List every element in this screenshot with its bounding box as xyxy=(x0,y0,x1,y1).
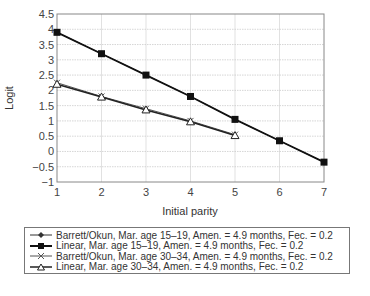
y-tick-label: 2.5 xyxy=(39,69,54,81)
legend-item: Linear, Mar. age 30–34, Amen. = 4.9 mont… xyxy=(30,262,349,273)
x-tick-label: 7 xyxy=(321,186,327,198)
y-tick-label: 3 xyxy=(48,54,54,66)
legend: Barrett/Okun, Mar. age 15–19, Amen. = 4.… xyxy=(24,227,350,274)
x-marker-icon xyxy=(30,252,52,260)
x-tick-label: 5 xyxy=(232,186,238,198)
y-axis-label: Logit xyxy=(3,86,15,110)
y-tick-label: 4.5 xyxy=(39,8,54,20)
line-chart: 4.543.532.521.510.50−0.5−1 1234567 Logit… xyxy=(0,0,370,225)
x-axis-ticks: 1234567 xyxy=(54,186,327,198)
y-tick-label: 1 xyxy=(48,115,54,127)
legend-label: Barrett/Okun, Mar. age 15–19, Amen. = 4.… xyxy=(56,230,333,241)
y-tick-label: 4 xyxy=(48,23,54,35)
legend-label: Linear, Mar. age 30–34, Amen. = 4.9 mont… xyxy=(56,261,303,272)
y-tick-label: 3.5 xyxy=(39,39,54,51)
triangle-marker-icon xyxy=(30,263,52,271)
x-tick-label: 1 xyxy=(54,186,60,198)
legend-item: Linear, Mar. age 15–19, Amen. = 4.9 mont… xyxy=(30,241,349,252)
x-tick-label: 3 xyxy=(143,186,149,198)
y-tick-label: 0.5 xyxy=(39,130,54,142)
legend-item: Barrett/Okun, Mar. age 15–19, Amen. = 4.… xyxy=(30,230,349,241)
legend-label: Barrett/Okun, Mar. age 30–34, Amen. = 4.… xyxy=(56,251,333,262)
x-tick-label: 4 xyxy=(187,186,193,198)
y-tick-label: 0 xyxy=(48,145,54,157)
x-tick-label: 2 xyxy=(98,186,104,198)
legend-label: Linear, Mar. age 15–19, Amen. = 4.9 mont… xyxy=(56,240,303,251)
square-marker-icon xyxy=(30,242,52,250)
x-axis-label: Initial parity xyxy=(162,205,218,217)
y-axis-ticks: 4.543.532.521.510.50−0.5−1 xyxy=(32,8,54,188)
legend-item: Barrett/Okun, Mar. age 30–34, Amen. = 4.… xyxy=(30,251,349,262)
y-tick-label: −0.5 xyxy=(32,161,54,173)
diamond-marker-icon xyxy=(30,231,52,239)
y-tick-label: −1 xyxy=(41,176,54,188)
x-tick-label: 6 xyxy=(276,186,282,198)
y-tick-label: 1.5 xyxy=(39,100,54,112)
